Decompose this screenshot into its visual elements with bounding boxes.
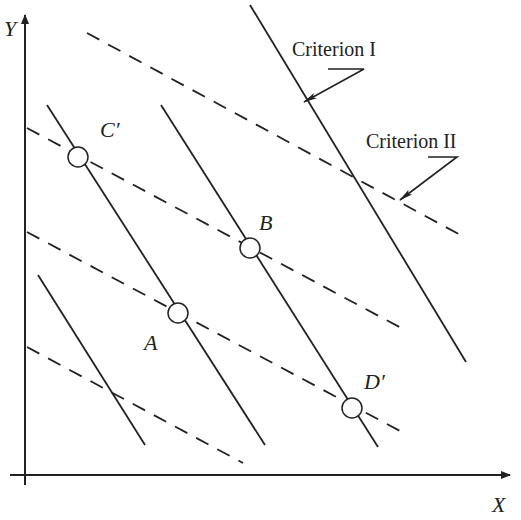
criterion-2-label: Criterion II (366, 130, 457, 152)
point-marker-3 (168, 303, 188, 323)
point-label-2: B (259, 210, 272, 235)
criterion-1-leader-arrow (304, 69, 364, 102)
point-label-4: D′ (363, 369, 386, 394)
criterion-2-leader-arrow (400, 157, 457, 200)
point-marker-1 (68, 147, 88, 167)
criterion-2-callout: Criterion II (366, 130, 457, 200)
point-label-3: A (142, 330, 158, 355)
intersection-points: C′BAD′ (68, 117, 386, 418)
criterion-2-line-4 (27, 347, 243, 463)
point-marker-2 (240, 238, 260, 258)
criterion-1-lines (38, 5, 466, 447)
point-marker-4 (342, 398, 362, 418)
criterion-1-line-3 (161, 105, 378, 447)
y-axis-label: Y (4, 16, 19, 41)
criteria-diagram: Y X Criterion I Criterion II C′BAD′ (0, 0, 521, 520)
x-axis-label: X (491, 492, 507, 517)
point-label-1: C′ (100, 117, 121, 142)
criterion-1-callout: Criterion I (292, 38, 376, 102)
axes: Y X (4, 15, 510, 517)
criterion-1-line-1 (38, 275, 145, 445)
criterion-1-label: Criterion I (292, 38, 376, 60)
